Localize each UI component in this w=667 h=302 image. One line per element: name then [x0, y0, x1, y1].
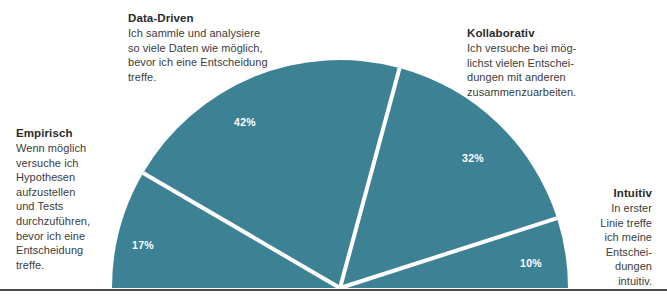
callout-kollaborativ-body: Ich versuche bei mög- lichst vielen Ents… [467, 41, 642, 99]
callout-intuitiv: Intuitiv In erster Linie treffe ich mein… [572, 186, 652, 289]
chart-baseline-rule [0, 289, 667, 291]
callout-empirisch-body: Wenn möglich versuche ich Hypothesen auf… [16, 141, 120, 272]
callout-intuitiv-body: In erster Linie treffe ich meine Entsche… [572, 201, 652, 289]
callout-kollaborativ: Kollaborativ Ich versuche bei mög- lichs… [467, 26, 642, 99]
callout-kollaborativ-title: Kollaborativ [467, 26, 642, 41]
callout-empirisch-title: Empirisch [16, 126, 120, 141]
callout-data-driven-title: Data-Driven [128, 11, 328, 26]
callout-intuitiv-title: Intuitiv [572, 186, 652, 201]
callout-data-driven-body: Ich sammle und analysiere so viele Daten… [128, 26, 328, 84]
slice-value-empirisch: 17% [132, 239, 154, 251]
callout-data-driven: Data-Driven Ich sammle und analysiere so… [128, 11, 328, 84]
callout-empirisch: Empirisch Wenn möglich versuche ich Hypo… [16, 126, 120, 272]
chart-page: 17% 42% 32% 10% Data-Driven Ich sammle u… [0, 0, 667, 302]
slice-value-data-driven: 42% [234, 116, 256, 128]
slice-value-intuitiv: 10% [520, 257, 542, 269]
slice-value-kollaborativ: 32% [462, 152, 484, 164]
